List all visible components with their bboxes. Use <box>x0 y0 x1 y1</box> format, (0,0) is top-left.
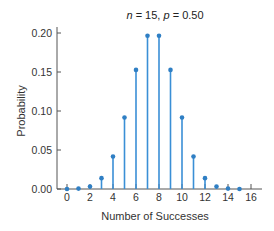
stem-marker <box>180 115 185 120</box>
x-tick-label: 8 <box>156 191 162 203</box>
stem-marker <box>237 187 242 192</box>
stem-marker <box>99 176 104 181</box>
stem-marker <box>76 186 81 191</box>
stem-marker <box>134 68 139 73</box>
y-tick-label: 0.05 <box>32 144 53 156</box>
y-tick-label: 0.20 <box>32 27 53 39</box>
svg-text:n = 15, p = 0.50: n = 15, p = 0.50 <box>126 9 203 21</box>
stem-marker <box>168 68 173 73</box>
stem-marker <box>203 176 208 181</box>
y-axis-title: Probability <box>15 85 27 137</box>
binomial-stem-chart: n = 15, p = 0.50 0.000.050.100.150.20 02… <box>0 0 274 231</box>
stem-marker <box>122 115 127 120</box>
x-tick-label: 14 <box>222 191 234 203</box>
x-tick-label: 12 <box>199 191 211 203</box>
y-tick-label: 0.15 <box>32 66 53 78</box>
x-tick-label: 6 <box>133 191 139 203</box>
x-tick-label: 2 <box>87 191 93 203</box>
x-tick-label: 0 <box>64 191 70 203</box>
stem-marker <box>145 34 150 39</box>
stem-marker <box>157 34 162 39</box>
stem-marker <box>191 154 196 159</box>
x-axis-title: Number of Successes <box>101 210 209 222</box>
chart-title: n = 15, p = 0.50 <box>126 9 203 21</box>
x-tick-label: 10 <box>176 191 188 203</box>
stem-marker <box>65 187 70 192</box>
y-tick-label: 0.10 <box>32 105 53 117</box>
x-tick-label: 16 <box>245 191 257 203</box>
stem-marker <box>226 186 231 191</box>
stem-marker <box>111 154 116 159</box>
stem-marker <box>88 184 93 189</box>
y-axis: 0.000.050.100.150.20 <box>32 27 61 195</box>
stem-marker <box>214 184 219 189</box>
stem-series <box>65 34 242 192</box>
y-tick-label: 0.00 <box>32 183 53 195</box>
x-tick-label: 4 <box>110 191 116 203</box>
